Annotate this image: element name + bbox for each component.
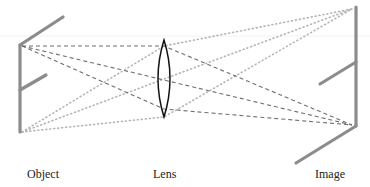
image-arm [320, 62, 356, 84]
lens-ray-diagram [0, 0, 370, 187]
image-label: Image [315, 168, 345, 180]
lens-label: Lens [153, 168, 176, 180]
object-head-diagonal [20, 17, 63, 45]
object-arm [20, 75, 46, 90]
image-figure [296, 7, 356, 163]
object-label: Object [27, 168, 59, 180]
image-foot-diagonal [296, 126, 356, 163]
object-figure [20, 17, 63, 132]
